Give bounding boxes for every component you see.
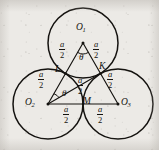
fraction-numerator: a bbox=[93, 40, 99, 49]
point-label-O1: O1 bbox=[76, 23, 86, 33]
angle-label-theta-O1: θ bbox=[79, 53, 83, 62]
angle-arc-O2 bbox=[54, 94, 60, 98]
segment-O2-K bbox=[48, 74, 101, 105]
point-label-K: K bbox=[99, 62, 105, 72]
fraction-numerator: a bbox=[63, 105, 69, 114]
vertex-dot-O2 bbox=[47, 103, 50, 106]
vertex-dot-O3 bbox=[117, 103, 120, 106]
fraction-denominator: 2 bbox=[93, 51, 99, 60]
fraction-numerator: a bbox=[77, 76, 83, 85]
fraction-denominator: 2 bbox=[63, 116, 69, 125]
fraction-denominator: 2 bbox=[38, 81, 44, 90]
length-label-O2-K: a 2 bbox=[77, 76, 83, 95]
length-label-O2-L: a 2 bbox=[38, 70, 44, 89]
length-label-K-O3: a 2 bbox=[107, 70, 113, 89]
angle-label-theta-O2: θ bbox=[62, 89, 66, 98]
fraction-denominator: 2 bbox=[107, 81, 113, 90]
length-label-M-O3: a 2 bbox=[97, 105, 103, 124]
fraction-numerator: a bbox=[38, 70, 44, 79]
point-label-M: M bbox=[83, 97, 91, 107]
length-label-O1-K: a 2 bbox=[93, 40, 99, 59]
fraction-denominator: 2 bbox=[59, 51, 65, 60]
fraction-numerator: a bbox=[97, 105, 103, 114]
fraction-numerator: a bbox=[107, 70, 113, 79]
fraction-denominator: 2 bbox=[77, 87, 83, 96]
fraction-denominator: 2 bbox=[97, 116, 103, 125]
tangency-dot-K bbox=[99, 72, 101, 74]
tangency-dot-L bbox=[64, 72, 66, 74]
vertex-dot-O1 bbox=[82, 42, 85, 45]
point-label-O2: O2 bbox=[25, 98, 35, 108]
geometry-figure: O1 O2 O3 L M K θ θ a 2 a 2 a 2 a 2 a bbox=[0, 0, 159, 150]
length-label-O1-L: a 2 bbox=[59, 40, 65, 59]
length-label-O2-M: a 2 bbox=[63, 105, 69, 124]
point-label-O3: O3 bbox=[121, 98, 131, 108]
point-label-L: L bbox=[55, 65, 60, 75]
fraction-numerator: a bbox=[59, 40, 65, 49]
